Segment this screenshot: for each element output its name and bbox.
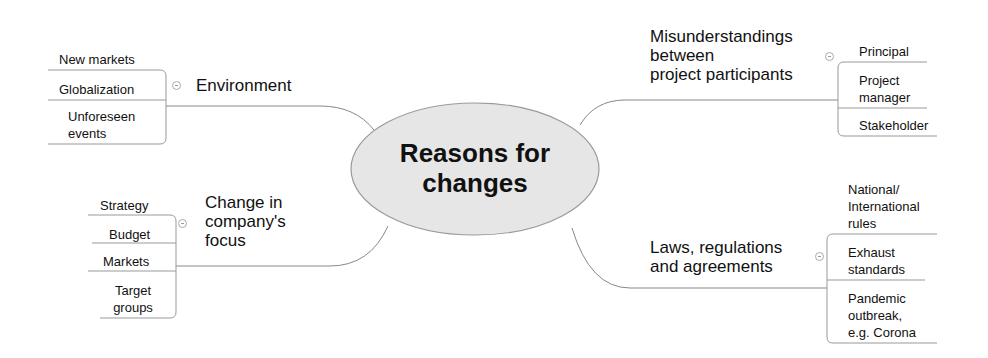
branch-label-line: Change in — [205, 193, 286, 212]
leaf-line: Exhaust — [848, 244, 905, 261]
leaf-new-markets[interactable]: New markets — [59, 51, 135, 68]
leaf-stakeholder[interactable]: Stakeholder — [859, 117, 928, 134]
leaf-globalization[interactable]: Globalization — [59, 81, 134, 98]
leaf-project-manager[interactable]: Project manager — [859, 72, 910, 106]
leaf-principal[interactable]: Principal — [859, 43, 909, 60]
leaf-line: outbreak, — [848, 307, 916, 324]
leaf-national-international-rules[interactable]: National/ International rules — [848, 181, 920, 232]
leaf-line: standards — [848, 261, 905, 278]
branch-label-line: company's — [205, 212, 286, 231]
leaf-line: groups — [108, 299, 158, 316]
leaf-line: events — [68, 125, 135, 142]
collapse-toggle-icon[interactable] — [815, 252, 824, 261]
leaf-line: Target — [108, 282, 158, 299]
branch-label-line: between — [650, 46, 793, 65]
branch-label-line: project participants — [650, 65, 793, 84]
central-topic[interactable]: Reasons for changes — [375, 138, 575, 198]
leaf-line: Pandemic — [848, 290, 916, 307]
branch-label-line: and agreements — [650, 257, 782, 276]
leaf-markets[interactable]: Markets — [103, 253, 149, 270]
leaf-line: e.g. Corona — [848, 324, 916, 341]
branch-line-misunderstandings — [580, 100, 838, 125]
central-topic-line1: Reasons for — [375, 138, 575, 168]
leaf-line: rules — [848, 215, 920, 232]
branch-label: Environment — [196, 76, 291, 95]
branch-misunderstandings[interactable]: Misunderstandings between project partic… — [650, 27, 793, 84]
central-topic-line2: changes — [375, 168, 575, 198]
leaf-line: manager — [859, 89, 910, 106]
leaf-line: Unforeseen — [68, 108, 135, 125]
branch-environment[interactable]: Environment — [196, 76, 291, 95]
leaf-line: Project — [859, 72, 910, 89]
leaf-target-groups[interactable]: Target groups — [108, 282, 158, 316]
leaf-unforeseen-events[interactable]: Unforeseen events — [68, 108, 135, 142]
branch-company-focus[interactable]: Change in company's focus — [205, 193, 286, 250]
collapse-toggle-icon[interactable] — [178, 219, 187, 228]
leaf-budget[interactable]: Budget — [109, 226, 150, 243]
collapse-toggle-icon[interactable] — [825, 52, 834, 61]
branch-line-environment — [166, 106, 374, 130]
leaf-strategy[interactable]: Strategy — [100, 197, 148, 214]
branch-label-line: Laws, regulations — [650, 238, 782, 257]
branch-label-line: Misunderstandings — [650, 27, 793, 46]
leaf-pandemic-outbreak[interactable]: Pandemic outbreak, e.g. Corona — [848, 290, 916, 341]
branch-laws[interactable]: Laws, regulations and agreements — [650, 238, 782, 276]
leaf-exhaust-standards[interactable]: Exhaust standards — [848, 244, 905, 278]
leaf-line: National/ — [848, 181, 920, 198]
leaf-line: International — [848, 198, 920, 215]
branch-label-line: focus — [205, 231, 286, 250]
collapse-toggle-icon[interactable] — [172, 81, 181, 90]
